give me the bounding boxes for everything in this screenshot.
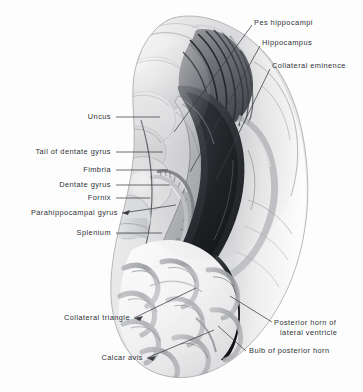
label-pes-hippocampi: Pes hippocampi — [254, 18, 313, 28]
label-hippocampus: Hippocampus — [262, 38, 312, 48]
label-uncus: Uncus — [88, 112, 111, 122]
label-fimbria: Fimbria — [83, 165, 111, 175]
label-posterior-horn-line2: lateral ventricle — [274, 327, 337, 337]
label-collateral-triangle: Collateral triangle — [64, 313, 130, 323]
label-fornix: Fornix — [88, 193, 111, 203]
left-cut-strip — [112, 112, 122, 238]
label-posterior-horn-line1: Posterior horn of — [274, 318, 337, 328]
label-dentate-gyrus: Dentate gyrus — [59, 180, 111, 190]
label-collateral-eminence: Collateral eminence — [272, 61, 346, 71]
label-calcar-avis: Calcar avis — [101, 353, 143, 363]
label-tail-of-dentate-gyrus: Tail of dentate gyrus — [35, 147, 111, 157]
label-splenium: Splenium — [77, 228, 111, 238]
label-posterior-horn-of-lateral-ventricle: Posterior horn of lateral ventricle — [274, 318, 337, 337]
label-parahippocampal-gyrus: Parahippocampal gyrus — [31, 208, 118, 218]
label-bulb-of-posterior-horn: Bulb of posterior horn — [249, 346, 330, 356]
